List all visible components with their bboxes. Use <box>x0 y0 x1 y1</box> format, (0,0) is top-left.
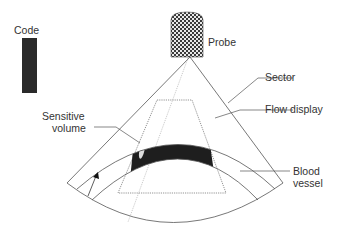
code-color-bar <box>22 38 37 93</box>
sensitive-volume-leader-line <box>94 127 140 143</box>
blood-vessel-label-line1: Blood <box>293 165 320 177</box>
code-label: Code <box>14 24 39 36</box>
flow-display-label: Flow display <box>265 103 324 115</box>
vessel-flow-band <box>128 110 218 200</box>
probe-icon <box>171 12 203 57</box>
probe-label: Probe <box>208 36 236 48</box>
doppler-diagram: Code Probe Sector Flow display Sen <box>0 0 340 234</box>
sector <box>67 57 283 223</box>
sensitive-volume-label-line2: volume <box>52 122 86 134</box>
probe: Probe <box>171 12 236 57</box>
blood-vessel-label-line2: vessel <box>293 177 323 189</box>
sensitive-volume-label-line1: Sensitive <box>42 110 85 122</box>
doppler-beam-line <box>128 58 188 222</box>
code-legend: Code <box>14 24 39 93</box>
sector-label: Sector <box>265 71 296 83</box>
